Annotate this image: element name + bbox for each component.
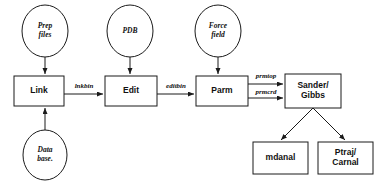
node-label-data_base-line1: Data (37, 145, 53, 154)
node-ptraj_carnal: Ptraj/Carnal (318, 142, 373, 174)
node-label-edit-line1: Edit (123, 85, 139, 95)
node-data_base: Database. (23, 130, 67, 180)
node-parm: Parm (196, 76, 248, 106)
node-edit: Edit (105, 76, 157, 106)
node-label-force_field-line2: field (211, 30, 225, 39)
node-label-pdb-line1: PDB (123, 26, 138, 35)
node-label-ptraj_carnal-line2: Carnal (332, 157, 358, 167)
nodes-layer: PrepfilesPDBForcefieldDatabase.LinkEditP… (14, 5, 373, 180)
node-force_field: Forcefield (195, 5, 241, 57)
node-label-parm-line1: Parm (211, 85, 233, 95)
node-label-prep_files-line2: files (39, 30, 52, 39)
flowchart-canvas: PrepfilesPDBForcefieldDatabase.LinkEditP… (0, 0, 387, 182)
node-mdanal: mdanal (253, 142, 308, 174)
node-label-ptraj_carnal-line1: Ptraj/ (335, 147, 357, 157)
amber-workflow-diagram: PrepfilesPDBForcefieldDatabase.LinkEditP… (0, 0, 387, 182)
node-pdb: PDB (107, 5, 153, 57)
node-label-data_base-line2: base. (37, 154, 53, 163)
edge-label-edit-to-parm: editbin (166, 82, 186, 90)
edge-sander-to-mdanal (281, 108, 313, 140)
edge-sander-to-ptraj (313, 108, 345, 140)
node-label-sander_gibbs-line2: Gibbs (301, 90, 325, 100)
node-link: Link (14, 76, 64, 106)
node-label-prep_files-line1: Prep (38, 21, 53, 30)
edge-label-parm-to-sander-top: prmtop (255, 72, 277, 80)
node-label-sander_gibbs-line1: Sander/ (297, 80, 329, 90)
node-sander_gibbs: Sander/Gibbs (285, 74, 341, 108)
node-label-force_field-line1: Force (209, 21, 228, 30)
node-prep_files: Prepfiles (22, 5, 68, 57)
edge-label-link-to-edit: lnkbin (75, 82, 94, 90)
node-label-mdanal-line1: mdanal (266, 152, 296, 162)
node-label-link-line1: Link (30, 85, 48, 95)
edge-label-parm-to-sander-bottom: prmcrd (255, 88, 278, 96)
